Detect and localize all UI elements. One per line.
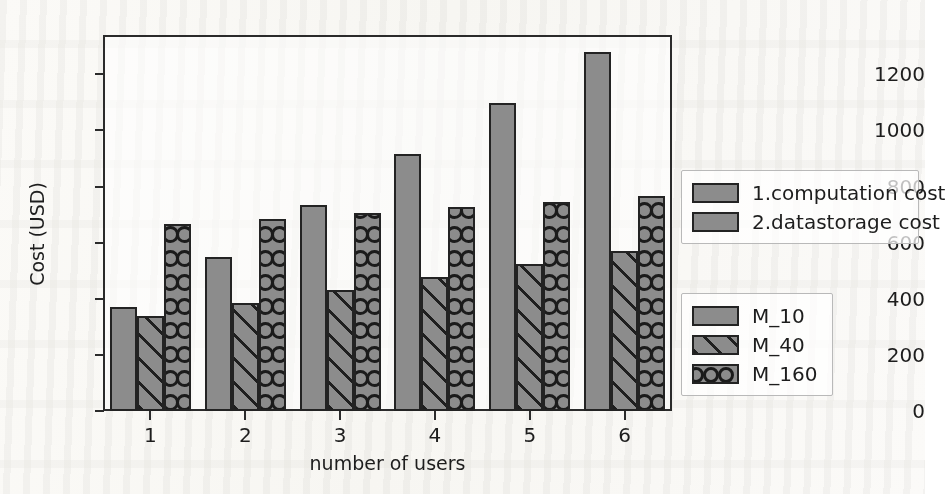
legend-cost-item[interactable]: 2.datastorage cost	[692, 207, 908, 236]
legend-cost-swatch-icon	[692, 212, 739, 232]
x-tick-label: 1	[130, 423, 170, 447]
circle-hatch-pattern	[166, 226, 189, 409]
legend-cost: 1.computation cost2.datastorage cost	[681, 170, 919, 244]
y-tick-label: 0	[839, 399, 925, 423]
bar-m_10-group-5	[489, 103, 516, 411]
bar-m_160-group-3	[354, 213, 381, 411]
legend-cost-swatch-icon	[692, 183, 739, 203]
circle-hatch-pattern	[356, 215, 379, 409]
x-tick-mark	[434, 411, 436, 420]
y-tick-label: 1000	[839, 118, 925, 142]
legend-model-item[interactable]: M_10	[692, 301, 822, 330]
circle-hatch-pattern	[545, 204, 568, 409]
circle-hatch-pattern	[450, 209, 473, 409]
bar-m_10-group-6	[584, 52, 611, 411]
x-tick-label: 5	[510, 423, 550, 447]
y-tick-label: 400	[839, 287, 925, 311]
bar-m_10-group-1	[110, 307, 137, 411]
bar-m_10-group-4	[394, 154, 421, 411]
bar-m_160-group-5	[543, 202, 570, 411]
y-tick-label: 200	[839, 343, 925, 367]
x-tick-label: 6	[605, 423, 645, 447]
plot-area	[103, 35, 672, 411]
bar-m_40-group-2	[232, 303, 259, 411]
bar-m_160-group-6	[638, 196, 665, 411]
x-tick-mark	[624, 411, 626, 420]
x-tick-label: 2	[225, 423, 265, 447]
bar-m_160-group-4	[448, 207, 475, 411]
x-tick-mark	[244, 411, 246, 420]
legend-model-swatch-icon	[692, 306, 739, 326]
y-tick-label: 1200	[839, 62, 925, 86]
y-axis-title: Cost (USD)	[26, 119, 48, 349]
legend-cost-label: 2.datastorage cost	[752, 210, 940, 234]
circle-hatch-pattern	[261, 221, 284, 409]
legend-model-swatch-icon	[692, 335, 739, 355]
legend-model-label: M_10	[752, 304, 805, 328]
legend-cost-item[interactable]: 1.computation cost	[692, 178, 908, 207]
legend-cost-label: 1.computation cost	[752, 181, 945, 205]
bar-m_160-group-1	[164, 224, 191, 411]
x-tick-label: 3	[320, 423, 360, 447]
bar-m_40-group-4	[421, 277, 448, 411]
bar-m_40-group-5	[516, 264, 543, 411]
circle-hatch-pattern	[640, 198, 663, 409]
legend-model-item[interactable]: M_160	[692, 359, 822, 388]
bar-m_10-group-2	[205, 257, 232, 411]
legend-model-swatch-icon	[692, 364, 739, 384]
bar-m_40-group-1	[137, 316, 164, 411]
x-tick-mark	[149, 411, 151, 420]
bar-m_160-group-2	[259, 219, 286, 411]
x-tick-mark	[339, 411, 341, 420]
x-tick-mark	[529, 411, 531, 420]
x-axis-title: number of users	[103, 452, 672, 474]
x-tick-label: 4	[415, 423, 455, 447]
legend-model-label: M_40	[752, 333, 805, 357]
bar-m_40-group-6	[611, 251, 638, 411]
bar-m_40-group-3	[327, 290, 354, 411]
bar-m_10-group-3	[300, 205, 327, 411]
legend-model-item[interactable]: M_40	[692, 330, 822, 359]
legend-models: M_10M_40M_160	[681, 293, 833, 396]
legend-model-label: M_160	[752, 362, 817, 386]
